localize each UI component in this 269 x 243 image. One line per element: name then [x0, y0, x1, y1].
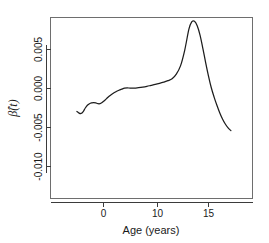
chart-figure: 0.005 0.000 -0.005 -0.010 0 10 15 Age (y… — [0, 0, 269, 243]
y-tick-labels: 0.005 0.000 -0.005 -0.010 — [33, 37, 44, 181]
y-axis-title-text: β̂(t) — [6, 99, 20, 117]
chart-canvas: 0.005 0.000 -0.005 -0.010 0 10 15 Age (y… — [0, 0, 269, 243]
y-tick-label-3: -0.010 — [33, 152, 44, 181]
x-axis-title: Age (years) — [123, 224, 180, 236]
y-axis — [47, 45, 51, 173]
y-axis-title: β̂(t) — [6, 99, 20, 117]
x-tick-label-1: 10 — [152, 208, 164, 219]
x-tick-label-0: 0 — [101, 208, 107, 219]
y-tick-label-0: 0.005 — [33, 37, 44, 62]
x-tick-labels: 0 10 15 — [101, 208, 215, 219]
y-tick-label-1: 0.000 — [33, 76, 44, 101]
plot-panel-border — [51, 18, 253, 199]
beta-curve — [77, 21, 231, 131]
x-axis — [51, 203, 253, 207]
y-tick-label-2: -0.005 — [33, 113, 44, 142]
x-tick-label-2: 15 — [203, 208, 215, 219]
